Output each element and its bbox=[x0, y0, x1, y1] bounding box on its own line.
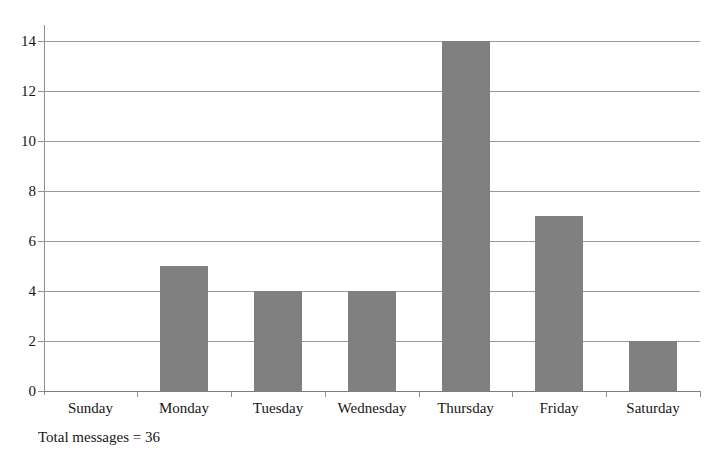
bar-thursday[interactable] bbox=[419, 41, 512, 391]
bar-friday[interactable] bbox=[512, 41, 606, 391]
x-tick-mark-2 bbox=[231, 391, 232, 397]
x-label-wednesday: Wednesday bbox=[325, 398, 419, 418]
x-tick-mark-1 bbox=[137, 391, 138, 397]
x-tick-mark-6 bbox=[606, 391, 607, 397]
x-tick-mark-3 bbox=[325, 391, 326, 397]
x-label-saturday: Saturday bbox=[606, 398, 700, 418]
y-tick-label-2: 2 bbox=[6, 334, 36, 349]
y-axis-labels: 14 12 10 8 6 4 2 0 bbox=[0, 0, 36, 461]
bar-rect-wednesday bbox=[348, 291, 396, 391]
y-tick-label-0: 0 bbox=[6, 384, 36, 399]
bar-wednesday[interactable] bbox=[325, 41, 419, 391]
y-tick-label-8: 8 bbox=[6, 184, 36, 199]
x-label-friday: Friday bbox=[512, 398, 606, 418]
x-axis-labels: Sunday Monday Tuesday Wednesday Thursday… bbox=[44, 398, 700, 422]
x-label-monday: Monday bbox=[137, 398, 231, 418]
plot-area bbox=[44, 41, 700, 391]
x-label-sunday: Sunday bbox=[44, 398, 137, 418]
bar-rect-tuesday bbox=[254, 291, 302, 391]
bar-monday[interactable] bbox=[137, 41, 231, 391]
bar-chart-figure: 14 12 10 8 6 4 2 0 bbox=[0, 0, 714, 461]
y-tick-label-10: 10 bbox=[6, 134, 36, 149]
y-tick-label-4: 4 bbox=[6, 284, 36, 299]
x-tick-mark-7 bbox=[700, 391, 701, 397]
y-tick-label-6: 6 bbox=[6, 234, 36, 249]
x-tick-mark-5 bbox=[512, 391, 513, 397]
x-label-tuesday: Tuesday bbox=[231, 398, 325, 418]
bar-sunday[interactable] bbox=[44, 41, 137, 391]
bar-rect-thursday bbox=[442, 41, 490, 391]
y-tick-label-12: 12 bbox=[6, 84, 36, 99]
chart-caption: Total messages = 36 bbox=[38, 428, 160, 446]
bar-saturday[interactable] bbox=[606, 41, 700, 391]
x-tick-mark-4 bbox=[419, 391, 420, 397]
y-tick-label-14: 14 bbox=[6, 34, 36, 49]
bar-rect-monday bbox=[160, 266, 208, 391]
bar-tuesday[interactable] bbox=[231, 41, 325, 391]
bar-rect-friday bbox=[535, 216, 583, 391]
x-label-thursday: Thursday bbox=[419, 398, 512, 418]
x-axis-line bbox=[44, 391, 701, 392]
bar-rect-saturday bbox=[629, 341, 677, 391]
